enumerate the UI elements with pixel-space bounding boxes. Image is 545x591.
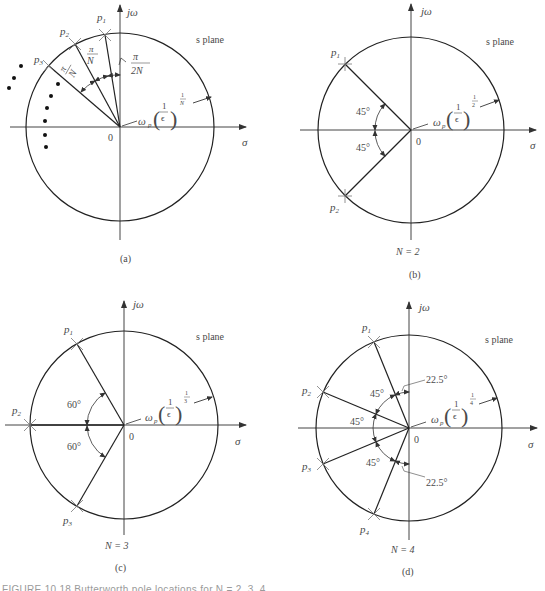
radius-arrow (480, 100, 499, 107)
radius-leader (126, 419, 141, 424)
radius-arrow (193, 97, 211, 103)
angle-label: 45° (356, 106, 370, 117)
pole-label-p2: p2 (301, 384, 312, 398)
svg-text:1: 1 (181, 92, 184, 98)
angle-arc (375, 131, 385, 156)
svg-text:1: 1 (162, 101, 167, 111)
svg-text:2: 2 (472, 102, 475, 108)
svg-text:4: 4 (470, 400, 473, 406)
angle-label: 45° (366, 457, 380, 468)
pole-label-p3: p3 (62, 514, 73, 528)
figure-caption-partial: FIGURE 10.18 Butterworth pole locations … (2, 584, 545, 591)
radius-arrow (194, 397, 212, 403)
sigma-label: σ (242, 136, 248, 148)
panel-d: jω σ 0 s plane p1 p2 p3 p4 45° 45° 45° 2… (298, 301, 537, 578)
panel-b: jω σ 0 s plane p1 p2 45° 45° ω p ( 1 ϵ )… (300, 4, 536, 281)
svg-text:1: 1 (454, 399, 459, 409)
pole-ray-p3 (77, 425, 124, 506)
svg-text:3: 3 (184, 398, 187, 404)
svg-text:1: 1 (471, 392, 474, 398)
panel-tag-c: (c) (115, 562, 126, 574)
svg-text:ω: ω (138, 115, 146, 127)
angle-arc (108, 75, 120, 76)
svg-text:): ) (170, 106, 177, 131)
s-plane-label: s plane (486, 36, 515, 47)
angle-label-pi-over-2n-num: π (133, 51, 139, 62)
angle-arc (87, 426, 105, 457)
angle-arc (87, 393, 105, 425)
angle-label: 45° (370, 388, 384, 399)
svg-text:p: p (147, 121, 152, 129)
svg-text:ϵ: ϵ (161, 113, 165, 123)
jomega-label: jω (131, 298, 144, 310)
svg-text:ω: ω (433, 116, 441, 128)
butterworth-pole-diagram: jω σ 0 s plane p1 p2 p3 π 2N π N π N ω p… (0, 0, 545, 591)
svg-text:): ) (461, 403, 468, 428)
angle-label: 22.5° (426, 477, 448, 488)
svg-text:ω: ω (431, 413, 439, 425)
pole-label-p1: p1 (63, 323, 73, 337)
angle-arc-22-5 (395, 461, 409, 464)
pole-x-icon (317, 458, 329, 470)
radius-arrow (479, 398, 497, 404)
angle-label: 45° (350, 416, 364, 427)
pole-ray-p2 (345, 130, 411, 196)
pole-ray-p1 (77, 344, 124, 425)
svg-text:N: N (179, 100, 185, 106)
origin-label: 0 (414, 434, 419, 445)
svg-text:(: ( (446, 106, 453, 131)
angle-arc (81, 81, 95, 92)
leader-line (402, 380, 425, 391)
pole-x-icon (71, 500, 83, 512)
angle-label: 45° (356, 142, 370, 153)
pole-x-icon (43, 60, 55, 72)
origin-label: 0 (108, 132, 113, 143)
pole-x-icon (368, 336, 380, 348)
angle-arc (95, 76, 108, 81)
angle-arc-22-5 (395, 392, 409, 395)
pole-label-p4: p4 (359, 523, 370, 537)
pole-x-icon (71, 338, 83, 350)
panel-c: jω σ 0 s plane p1 p2 p3 60° 60° ω p ( 1 … (5, 298, 246, 574)
angle-label-pi-over-2n-den: 2N (131, 65, 144, 76)
angle-label: 22.5° (426, 374, 448, 385)
origin-label: 0 (416, 136, 421, 147)
pole-label-p1: p1 (96, 11, 106, 25)
s-plane-label: s plane (485, 334, 514, 345)
s-plane-label: s plane (196, 331, 225, 342)
leader-line (402, 466, 425, 477)
pole-label-p1: p1 (330, 46, 340, 60)
panel-tag-b: (b) (409, 269, 421, 281)
pole-ray-p3 (49, 66, 120, 127)
angle-label-pi-over-n-rotated: π N (57, 60, 81, 80)
angle-label-pi-over-n-den: N (86, 55, 95, 66)
angle-arc (375, 104, 385, 130)
svg-text:ϵ: ϵ (453, 411, 457, 421)
svg-text:N: N (66, 67, 80, 80)
radius-formula: ω p ( 1 ϵ ) 1 2 (433, 94, 478, 131)
svg-text:): ) (175, 401, 182, 426)
pole-label-p3: p3 (33, 53, 44, 67)
sigma-label: σ (528, 438, 534, 450)
svg-text:1: 1 (185, 390, 188, 396)
pole-x-icon (317, 386, 329, 398)
pole-x-icon (368, 508, 380, 520)
continuation-dots (7, 64, 60, 149)
n-label: N = 2 (395, 246, 419, 257)
pole-label-p3: p3 (301, 460, 312, 474)
n-label: N = 3 (104, 540, 128, 551)
radius-leader (411, 422, 426, 427)
svg-text:ω: ω (145, 411, 153, 423)
pole-ray-p1 (345, 64, 411, 130)
pole-label-p2: p2 (11, 404, 22, 418)
angle-label: 60° (67, 441, 81, 452)
svg-text:): ) (463, 106, 470, 131)
svg-text:1: 1 (473, 94, 476, 100)
svg-text:ϵ: ϵ (455, 114, 459, 124)
angle-label-pi-over-n-num: π (89, 44, 94, 54)
sigma-label: σ (530, 139, 536, 151)
svg-text:ϵ: ϵ (167, 409, 171, 419)
origin-label: 0 (129, 431, 134, 442)
radius-formula: ω p ( 1 ϵ ) 1 3 (145, 390, 190, 426)
pole-label-p2: p2 (59, 25, 70, 39)
